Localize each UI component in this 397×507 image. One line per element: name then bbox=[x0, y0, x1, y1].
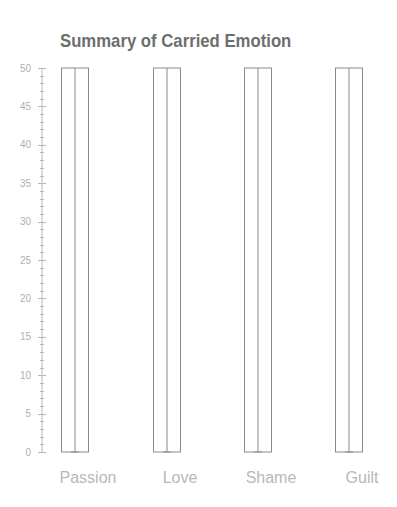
bar-love bbox=[154, 68, 181, 452]
y-tick-label: 5 bbox=[25, 408, 31, 419]
y-tick-label: 15 bbox=[20, 331, 32, 342]
y-axis: 05101520253035404550 bbox=[20, 63, 46, 458]
y-tick-label: 10 bbox=[20, 370, 32, 381]
bars bbox=[62, 68, 363, 452]
y-tick-label: 0 bbox=[25, 447, 31, 458]
x-tick-label: Guilt bbox=[346, 469, 379, 486]
bar-guilt bbox=[336, 68, 363, 452]
y-tick-label: 25 bbox=[20, 255, 32, 266]
x-tick-label: Love bbox=[163, 469, 198, 486]
y-tick-label: 20 bbox=[20, 293, 32, 304]
y-tick-label: 30 bbox=[20, 216, 32, 227]
bar-chart: 05101520253035404550 PassionLoveShameGui… bbox=[0, 0, 397, 507]
y-tick-label: 35 bbox=[20, 178, 32, 189]
x-axis-labels: PassionLoveShameGuilt bbox=[60, 469, 379, 486]
x-tick-label: Passion bbox=[60, 469, 117, 486]
x-tick-label: Shame bbox=[246, 469, 297, 486]
y-tick-label: 40 bbox=[20, 139, 32, 150]
bar-passion bbox=[62, 68, 89, 452]
y-tick-label: 45 bbox=[20, 101, 32, 112]
y-tick-label: 50 bbox=[20, 63, 32, 74]
bar-shame bbox=[245, 68, 272, 452]
